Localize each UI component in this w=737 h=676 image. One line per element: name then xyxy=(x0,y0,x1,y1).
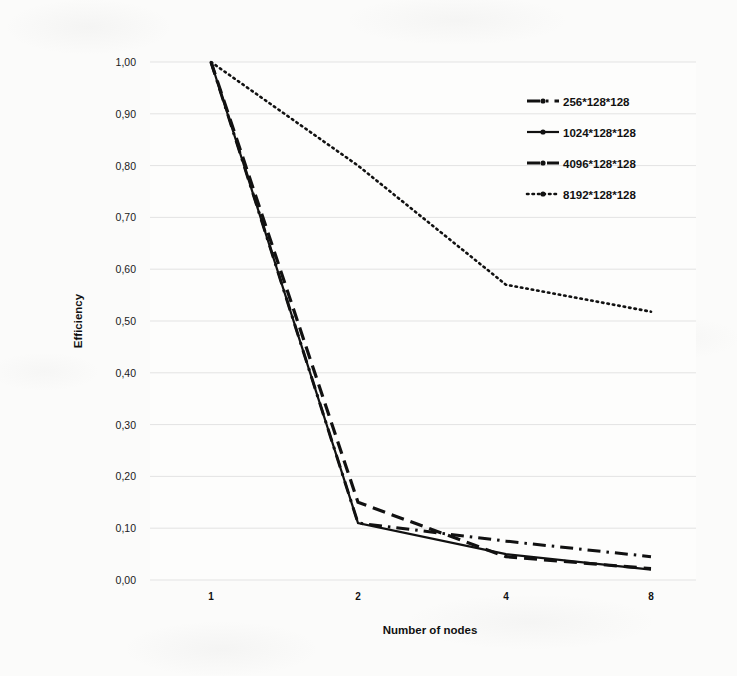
legend-marker-256*128*128 xyxy=(540,98,545,103)
x-axis-tick-label: 1 xyxy=(208,591,214,602)
y-axis-tick-labels: 0,000,100,200,300,400,500,600,700,800,90… xyxy=(116,56,137,586)
legend-label-1024*128*128: 1024*128*128 xyxy=(563,127,637,139)
x-axis-tick-labels: 1248 xyxy=(208,591,654,602)
y-axis-tick-label: 0,10 xyxy=(116,522,137,534)
chart-canvas: 0,000,100,200,300,400,500,600,700,800,90… xyxy=(40,16,737,676)
y-axis-title: Efficiency xyxy=(72,293,84,348)
legend-marker-4096*128*128 xyxy=(540,160,545,165)
y-axis-tick-label: 0,70 xyxy=(116,211,137,223)
y-axis-tick-label: 0,80 xyxy=(116,160,137,172)
y-axis-tick-label: 0,40 xyxy=(116,367,137,379)
x-axis-title: Number of nodes xyxy=(383,624,478,636)
y-axis-tick-label: 0,90 xyxy=(116,108,137,120)
legend-label-8192*128*128: 8192*128*128 xyxy=(563,189,637,201)
x-axis-tick-label: 8 xyxy=(648,591,654,602)
y-axis-tick-label: 0,00 xyxy=(116,574,137,586)
y-axis-tick-label: 1,00 xyxy=(116,56,137,68)
y-axis-tick-label: 0,20 xyxy=(116,470,137,482)
y-axis-tick-label: 0,50 xyxy=(116,315,137,327)
legend-label-256*128*128: 256*128*128 xyxy=(563,96,630,108)
legend-marker-1024*128*128 xyxy=(540,129,545,134)
y-axis-tick-label: 0,60 xyxy=(116,263,137,275)
legend-marker-8192*128*128 xyxy=(540,191,545,196)
efficiency-line-chart: 0,000,100,200,300,400,500,600,700,800,90… xyxy=(40,16,737,676)
y-axis-tick-label: 0,30 xyxy=(116,419,137,431)
x-axis-tick-label: 4 xyxy=(503,591,509,602)
legend-label-4096*128*128: 4096*128*128 xyxy=(563,158,637,170)
x-axis-tick-label: 2 xyxy=(355,591,361,602)
